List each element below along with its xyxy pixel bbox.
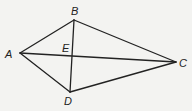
- segment-da: [20, 53, 70, 92]
- labels-group: A B C D E: [4, 5, 187, 107]
- segment-ac: [20, 53, 176, 62]
- kite-diagram: A B C D E: [0, 0, 192, 111]
- segment-bc: [74, 20, 176, 62]
- point-label-c: C: [179, 57, 187, 69]
- point-label-e: E: [62, 42, 70, 54]
- segment-cd: [70, 62, 176, 92]
- point-label-a: A: [4, 48, 12, 60]
- point-label-d: D: [64, 95, 72, 107]
- segments-group: [20, 20, 176, 92]
- point-label-b: B: [71, 5, 78, 17]
